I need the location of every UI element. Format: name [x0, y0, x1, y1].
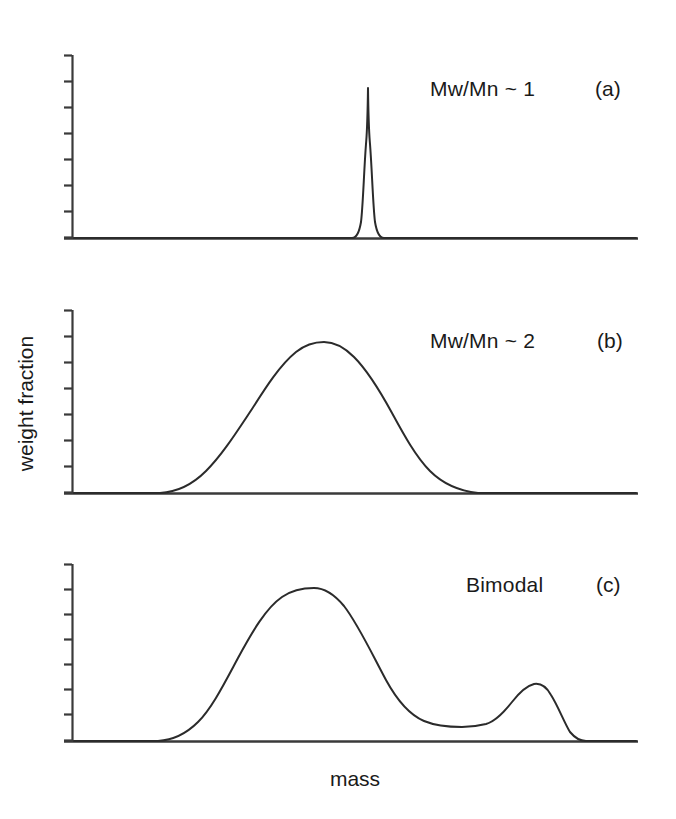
panel-c-annotation: Bimodal [466, 574, 543, 595]
panel-b-plot [0, 295, 676, 510]
panel-b: Mw/Mn ~ 2 (b) [0, 295, 676, 510]
panel-c-curve [74, 588, 636, 741]
panel-a-plot [0, 40, 676, 255]
panel-b-tag: (b) [597, 330, 623, 351]
panel-a-annotation: Mw/Mn ~ 1 [430, 78, 535, 99]
panel-a: Mw/Mn ~ 1 (a) [0, 40, 676, 255]
panel-c-tag: (c) [596, 574, 621, 595]
panel-c-plot [0, 550, 676, 760]
panel-b-annotation: Mw/Mn ~ 2 [430, 330, 535, 351]
panel-a-tag: (a) [595, 78, 621, 99]
panel-c: Bimodal (c) [0, 550, 676, 760]
panel-c-y-ticks [64, 565, 72, 741]
panel-b-curve [74, 342, 636, 493]
panel-a-y-ticks [64, 56, 72, 238]
x-axis-title: mass [72, 768, 638, 789]
panel-b-y-ticks [64, 311, 72, 493]
panel-a-curve [74, 88, 636, 238]
figure-root: weight fraction Mw/Mn ~ 1 (a) [0, 0, 676, 819]
